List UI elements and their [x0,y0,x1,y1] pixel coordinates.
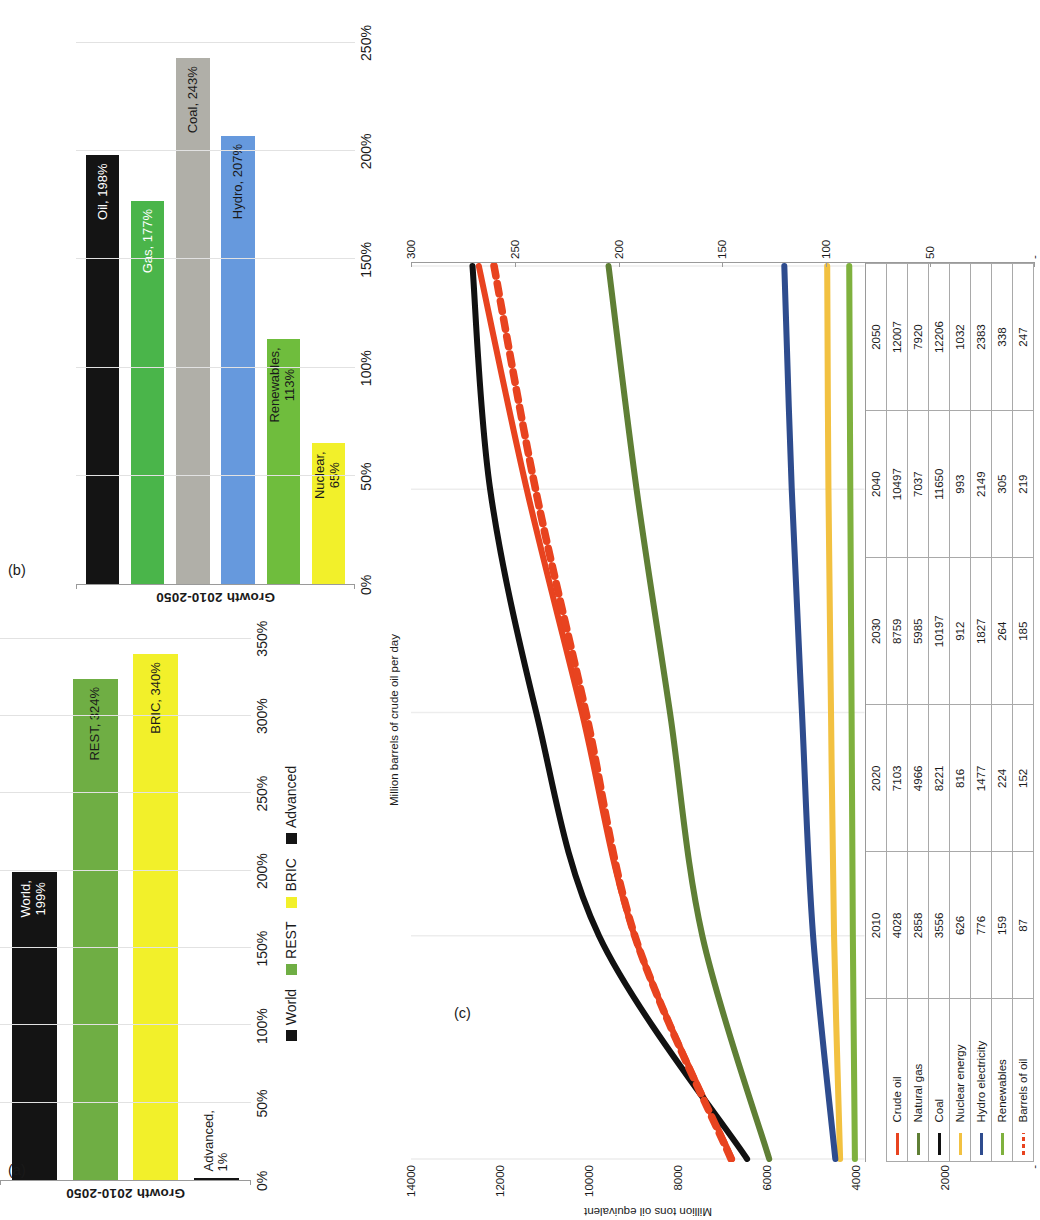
legend-line-marker [896,1133,900,1155]
bar-value-label: Coal, 243% [186,66,201,133]
data-table-c: 20102020203020402050Crude oil40287103875… [866,263,1034,1162]
table-cell: 3556 [928,852,949,999]
bar-hydro: Hydro, 207% [221,136,254,584]
y-tick-label-right: 300 [405,240,417,259]
y-tick-mark-right [619,262,620,267]
legend-swatch-barrels-of-oil [1012,1128,1033,1162]
table-cell: 159 [991,852,1012,999]
table-corner-blank [866,999,887,1128]
y-tick-label-left: 4000 [850,1165,862,1191]
table-row-label: Hydro electricity [970,999,991,1128]
table-cell: 1477 [970,705,991,852]
x-tick-label: 0% [254,1171,270,1191]
bar-advanced: Advanced, 1% [194,1178,239,1180]
bar-value-label: REST, 324% [88,687,103,761]
panel-c-energy-demand: Million barrels of crude oil per day Mil… [387,220,807,1220]
bar-row: Advanced, 1% [186,600,247,1180]
table-cell: 11650 [928,411,949,558]
plot-area-c [411,263,866,1162]
y-tick-label-right: 150 [716,240,728,259]
table-row-label: Coal [928,999,949,1128]
bar-nuclear: Nuclear, 65% [312,443,345,584]
gridline [0,947,251,948]
table-row: Renewables159224264305338 [991,264,1012,1162]
table-cell: 7037 [907,411,928,558]
legend-swatch [286,964,297,975]
secondary-axis-title-c: Million barrels of crude oil per day [387,220,411,1220]
bar-row: Nuclear, 65% [306,4,351,584]
gridline [76,150,355,151]
legend-a: WorldRESTBRICAdvanced [277,600,305,1207]
legend-line-marker [959,1133,963,1155]
table-column-header: 2020 [866,705,887,852]
x-tick-label: 250% [358,25,374,61]
legend-label: Advanced [283,766,299,828]
panel-tag-b: (b) [8,562,26,578]
line-series-svg [411,263,865,1162]
plot-area-a: World, 199%REST, 324%BRIC, 340%Advanced,… [0,600,251,1181]
x-tick-label: 150% [358,242,374,278]
primary-axis-title-c: Million tons oil equivalent [411,1204,1034,1220]
bar-oil: Oil, 198% [86,156,119,585]
y-tick-mark-right [826,262,827,267]
bar-value-label: Gas, 177% [140,209,155,273]
table-cell: 776 [970,852,991,999]
table-row-label: Renewables [991,999,1012,1128]
bar-row: BRIC, 340% [126,600,187,1180]
legend-swatch-hydro-electricity [970,1128,991,1162]
table-cell: 219 [1012,411,1033,558]
table-cell: 7920 [907,264,928,411]
bar-row: Gas, 177% [125,4,170,584]
legend-item: REST [283,922,299,975]
bar-row: Coal, 243% [170,4,215,584]
x-tick-label: 150% [254,931,270,967]
table-row: Hydro electricity7761477182721492383 [970,264,991,1162]
table-cell: 224 [991,705,1012,852]
legend-swatch [286,833,297,844]
table-cell: 993 [949,411,970,558]
bar-value-label: Advanced, 1% [202,1110,231,1171]
bar-renewables: Renewables, 113% [267,339,300,584]
legend-swatch-nuclear-energy [949,1128,970,1162]
y-tick-mark-right [1034,262,1035,267]
legend-swatch-natural-gas [907,1128,928,1162]
table-cell: 1827 [970,558,991,705]
x-axis-ticks-a: 0%50%100%150%200%250%300%350% [251,600,277,1181]
gridline [0,1024,251,1025]
y-tick-label-left: 12000 [494,1165,506,1197]
table-column-header: 2040 [866,411,887,558]
x-tick-label: 250% [254,776,270,812]
y-tick-label-left: 6000 [761,1165,773,1191]
gridline [0,870,251,871]
bar-value-label: BRIC, 340% [149,662,164,734]
y-tick-mark-right [515,262,516,267]
y-tick-label-right: 250 [509,240,521,259]
y-tick-label-left: 2000 [939,1165,951,1191]
x-tick-label: 200% [254,853,270,889]
bar-row: Renewables, 113% [261,4,306,584]
line-renewables [849,266,855,1159]
series-data-table: 20102020203020402050Crude oil40287103875… [866,263,1034,1162]
y-tick-mark-right [411,262,412,267]
legend-line-marker [917,1133,921,1155]
x-tick-label: 100% [254,1008,270,1044]
x-tick-label: 350% [254,621,270,657]
legend-label: BRIC [283,858,299,891]
y-axis-left-ticks-c: -2000400060008000100001200014000 [411,1162,1034,1204]
table-column-header: 2050 [866,264,887,411]
table-cell: 10197 [928,558,949,705]
legend-line-marker [1022,1133,1026,1155]
legend-item: World [283,989,299,1041]
table-cell: 816 [949,705,970,852]
table-cell: 912 [949,558,970,705]
bar-coal: Coal, 243% [176,58,209,584]
table-row-label: Nuclear energy [949,999,970,1128]
gridline [0,792,251,793]
y-tick-label-right: - [1028,255,1040,259]
table-column-header: 2010 [866,852,887,999]
table-cell: 7103 [886,705,907,852]
table-cell: 185 [1012,558,1033,705]
y-tick-label-right: 200 [613,240,625,259]
table-cell: 2149 [970,411,991,558]
table-cell: 2383 [970,264,991,411]
